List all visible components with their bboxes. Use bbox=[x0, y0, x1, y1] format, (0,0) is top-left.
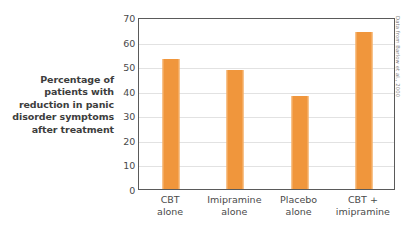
y-axis-title-line: after treatment bbox=[6, 124, 114, 136]
bar[interactable] bbox=[227, 70, 244, 189]
y-axis-tick-label: 10 bbox=[112, 160, 135, 171]
x-axis-category-label: CBT +imipramine bbox=[336, 194, 390, 217]
x-axis-category-label-line: alone bbox=[157, 206, 183, 218]
x-axis-category-label-line: CBT bbox=[157, 194, 183, 206]
bar-slot bbox=[268, 19, 332, 189]
bar[interactable] bbox=[163, 59, 180, 189]
y-axis-tick-label: 30 bbox=[112, 111, 135, 122]
x-axis-category-label: CBTalone bbox=[157, 194, 183, 217]
y-axis-title: Percentage of patients with reduction in… bbox=[6, 74, 114, 136]
x-axis-category-label: Placeboalone bbox=[280, 194, 317, 217]
x-axis-category-labels: CBTaloneImipraminealonePlaceboaloneCBT +… bbox=[138, 194, 395, 234]
bar-series bbox=[139, 19, 394, 189]
bar-slot bbox=[332, 19, 396, 189]
bar-slot bbox=[203, 19, 267, 189]
y-axis-tick-label: 40 bbox=[112, 86, 135, 97]
y-axis-tick-label: 50 bbox=[112, 62, 135, 73]
y-axis-title-line: reduction in panic bbox=[6, 99, 114, 111]
y-axis-tick-label: 70 bbox=[112, 13, 135, 24]
bar-slot bbox=[139, 19, 203, 189]
x-axis-category-label: Imipraminealone bbox=[207, 194, 261, 217]
bar[interactable] bbox=[355, 32, 372, 189]
source-credit: Data from Barlow et al., 2000 bbox=[395, 16, 401, 96]
y-axis-title-line: Percentage of bbox=[6, 74, 114, 86]
y-axis-title-line: patients with bbox=[6, 86, 114, 98]
x-axis-category-label-line: imipramine bbox=[336, 206, 390, 218]
x-axis-category-label-line: CBT + bbox=[336, 194, 390, 206]
x-axis-category-label-line: alone bbox=[207, 206, 261, 218]
y-axis-tick-label: 60 bbox=[112, 37, 135, 48]
bar[interactable] bbox=[291, 96, 308, 189]
x-axis-category-label-line: Placebo bbox=[280, 194, 317, 206]
y-axis-tick-labels: 010203040506070 bbox=[112, 0, 135, 237]
x-axis-category-label-line: Imipramine bbox=[207, 194, 261, 206]
x-axis-category-label-line: alone bbox=[280, 206, 317, 218]
plot-area bbox=[138, 18, 395, 190]
y-axis-tick-label: 0 bbox=[112, 185, 135, 196]
y-axis-title-line: disorder symptoms bbox=[6, 111, 114, 123]
y-axis-tick-label: 20 bbox=[112, 135, 135, 146]
